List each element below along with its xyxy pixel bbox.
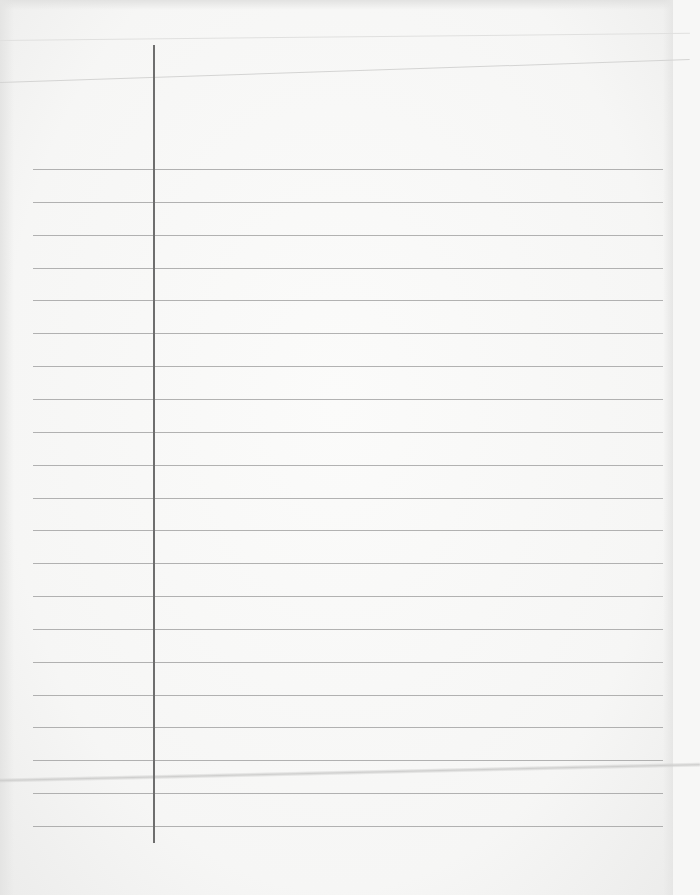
paper-crease [0,59,690,83]
ruled-line [33,300,663,301]
paper-edge-right [663,0,673,895]
ruled-line [33,498,663,499]
ruled-line [33,268,663,269]
ruled-line [33,760,663,761]
ruled-line [33,629,663,630]
ruled-line [33,563,663,564]
paper-streak [0,762,700,783]
ruled-line [33,202,663,203]
ruled-line [33,793,663,794]
paper-edge-top [0,0,673,10]
ruled-line [33,695,663,696]
ruled-line [33,399,663,400]
ruled-line [33,235,663,236]
ruled-line [33,465,663,466]
margin-line [153,45,155,843]
ruled-line [33,169,663,170]
paper-edge-left [0,0,14,895]
ruled-line [33,432,663,433]
ruled-line [33,530,663,531]
ruled-line [33,333,663,334]
ruled-line [33,826,663,827]
paper-crease [0,33,690,41]
ruled-line [33,596,663,597]
ruled-line [33,727,663,728]
ruled-line [33,662,663,663]
ruled-line [33,366,663,367]
